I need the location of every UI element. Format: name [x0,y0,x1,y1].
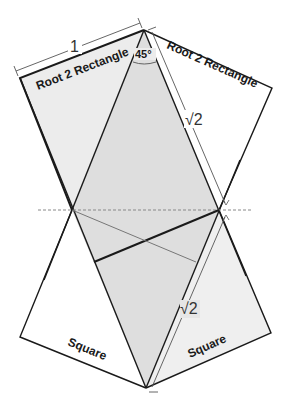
dimension-label-lower-root2: √2 [180,300,198,317]
arrow-mark-lower [223,215,229,220]
angle-label: 45° [135,48,152,60]
arrow-mark-upper [223,200,229,205]
upper-root2-tick [148,27,156,30]
dimension-tick-left [14,66,18,76]
root2-rectangle-diagram: 1 √2 √2 45° Root 2 Rectangle Root 2 Rect… [0,0,287,412]
dimension-label-one: 1 [70,38,79,55]
label-right-root2-rectangle: Root 2 Rectangle [165,38,261,91]
dimension-tick-right [138,18,142,28]
dimension-label-upper-root2: √2 [185,111,203,128]
